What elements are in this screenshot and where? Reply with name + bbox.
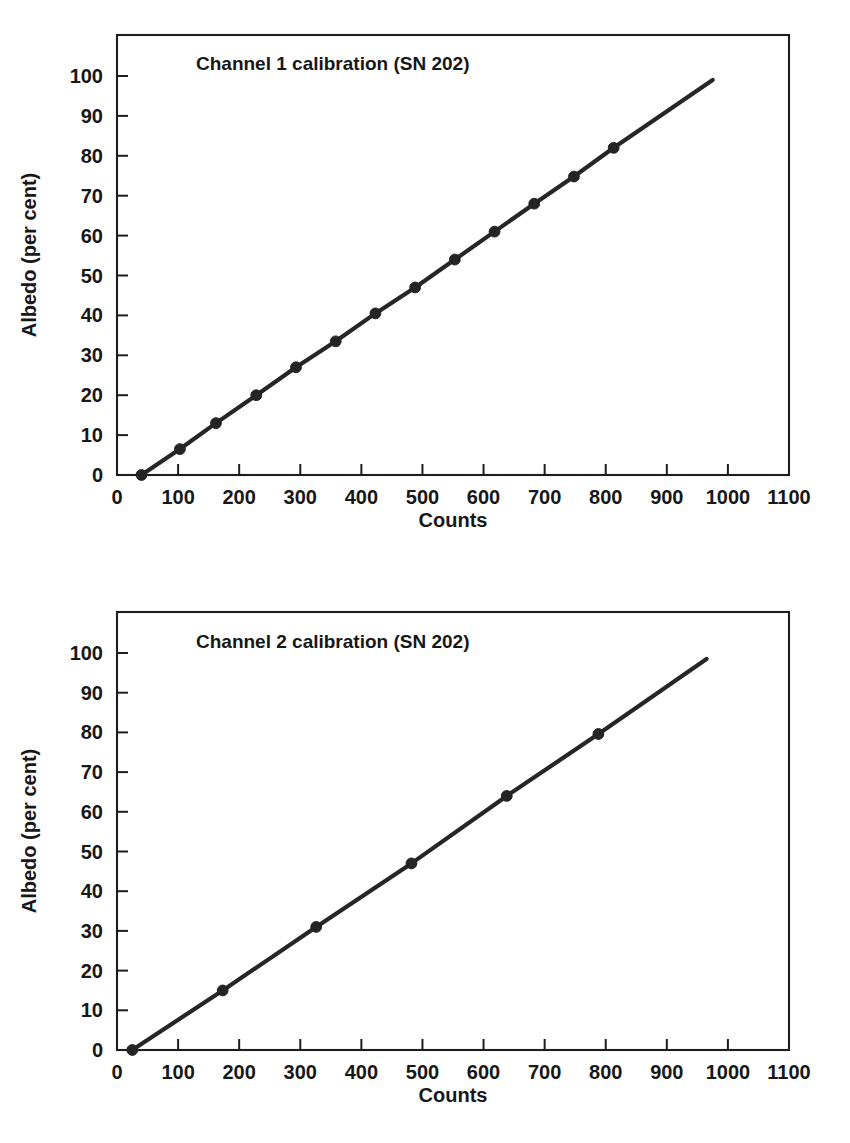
x-tick-label: 200 — [222, 486, 255, 508]
x-tick-label: 700 — [528, 486, 561, 508]
y-tick-label: 30 — [81, 920, 103, 942]
y-tick-label: 50 — [81, 265, 103, 287]
data-point-marker — [406, 858, 417, 869]
plot-title: Channel 1 calibration (SN 202) — [196, 53, 469, 74]
y-tick-label: 0 — [92, 1039, 103, 1061]
series-line — [141, 80, 712, 475]
data-point-marker — [410, 282, 421, 293]
y-tick-label: 100 — [70, 642, 103, 664]
data-point-marker — [136, 470, 147, 481]
data-point-marker — [501, 791, 512, 802]
y-tick-label: 60 — [81, 225, 103, 247]
y-axis-title: Albedo (per cent) — [18, 173, 40, 337]
data-point-marker — [251, 390, 262, 401]
data-point-marker — [127, 1045, 138, 1056]
x-axis: 010020030040050060070080090010001100 — [111, 464, 810, 508]
x-tick-label: 1000 — [706, 1061, 751, 1083]
x-tick-label: 100 — [161, 1061, 194, 1083]
x-tick-label: 700 — [528, 1061, 561, 1083]
data-point-marker — [489, 226, 500, 237]
y-tick-label: 50 — [81, 841, 103, 863]
y-tick-label: 0 — [92, 464, 103, 486]
y-tick-label: 10 — [81, 424, 103, 446]
x-tick-label: 500 — [406, 1061, 439, 1083]
plot-area: 0100200300400500600700800900100011000102… — [0, 0, 850, 560]
y-tick-label: 100 — [70, 65, 103, 87]
data-point-marker — [175, 444, 186, 455]
data-point-marker — [217, 985, 228, 996]
y-tick-label: 70 — [81, 761, 103, 783]
plot-frame — [117, 612, 789, 1050]
x-tick-label: 1000 — [706, 486, 751, 508]
y-tick-label: 70 — [81, 185, 103, 207]
y-axis: 0102030405060708090100 — [70, 65, 128, 486]
y-tick-label: 20 — [81, 384, 103, 406]
x-tick-label: 200 — [222, 1061, 255, 1083]
data-point-marker — [529, 198, 540, 209]
chart-panel-channel-2: 0100200300400500600700800900100011000102… — [0, 576, 850, 1143]
x-tick-label: 800 — [589, 486, 622, 508]
y-axis-title: Albedo (per cent) — [18, 749, 40, 913]
data-point-marker — [449, 254, 460, 265]
x-tick-label: 0 — [111, 486, 122, 508]
x-tick-label: 600 — [467, 1061, 500, 1083]
x-tick-label: 1100 — [767, 486, 810, 508]
y-tick-label: 40 — [81, 880, 103, 902]
data-point-marker — [370, 308, 381, 319]
y-tick-label: 90 — [81, 682, 103, 704]
x-tick-label: 300 — [284, 1061, 317, 1083]
y-axis: 0102030405060708090100 — [70, 642, 128, 1061]
data-point-marker — [291, 362, 302, 373]
y-tick-label: 40 — [81, 304, 103, 326]
x-tick-label: 800 — [589, 1061, 622, 1083]
y-tick-label: 30 — [81, 344, 103, 366]
data-point-marker — [311, 922, 322, 933]
y-tick-label: 80 — [81, 145, 103, 167]
x-tick-label: 500 — [406, 486, 439, 508]
data-point-marker — [330, 336, 341, 347]
data-point-marker — [593, 729, 604, 740]
y-tick-label: 90 — [81, 105, 103, 127]
x-tick-label: 100 — [161, 486, 194, 508]
data-point-marker — [211, 418, 222, 429]
x-tick-label: 600 — [467, 486, 500, 508]
x-axis-title: Counts — [419, 509, 488, 531]
data-point-marker — [569, 171, 580, 182]
x-axis: 010020030040050060070080090010001100 — [111, 1039, 810, 1083]
x-tick-label: 400 — [345, 486, 378, 508]
y-tick-label: 60 — [81, 801, 103, 823]
y-tick-label: 80 — [81, 721, 103, 743]
y-tick-label: 20 — [81, 960, 103, 982]
plot-area: 0100200300400500600700800900100011000102… — [0, 576, 850, 1143]
x-tick-label: 900 — [650, 486, 683, 508]
plot-title: Channel 2 calibration (SN 202) — [196, 631, 469, 652]
x-axis-title: Counts — [419, 1084, 488, 1106]
x-tick-label: 0 — [111, 1061, 122, 1083]
x-tick-label: 900 — [650, 1061, 683, 1083]
y-tick-label: 10 — [81, 999, 103, 1021]
chart-panel-channel-1: 0100200300400500600700800900100011000102… — [0, 0, 850, 560]
x-tick-label: 300 — [284, 486, 317, 508]
data-point-marker — [608, 142, 619, 153]
x-tick-label: 400 — [345, 1061, 378, 1083]
x-tick-label: 1100 — [767, 1061, 810, 1083]
